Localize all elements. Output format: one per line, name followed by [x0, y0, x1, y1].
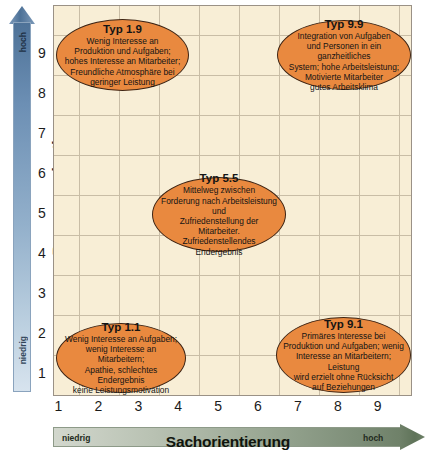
gridline-horizontal	[54, 115, 411, 116]
x-tick-label-8: 8	[326, 398, 350, 414]
chart-bubble-typ-5-5: Typ 5.5Mittelweg zwischen Forderung nach…	[152, 177, 286, 252]
x-axis-arrow-body: Sachorientierung	[53, 427, 401, 447]
bubble-body: Wenig Interesse an Aufgaben; wenig Inter…	[63, 334, 179, 395]
y-axis-arrow: hoch niedrig	[9, 6, 35, 392]
chart-plot-area: Typ 1.9Wenig Interesse an Produktion und…	[53, 5, 412, 396]
y-tick-label-9: 9	[34, 45, 50, 61]
bubble-body: Integration von Aufgaben und Personen in…	[284, 31, 404, 92]
y-tick-label-2: 2	[34, 325, 50, 341]
x-tick-label-1: 1	[47, 398, 71, 414]
chart-bubble-typ-1-1: Typ 1.1Wenig Interesse an Aufgaben; weni…	[56, 323, 186, 393]
bubble-body: Mittelweg zwischen Forderung nach Arbeit…	[159, 185, 279, 256]
chart-bubble-typ-9-9: Typ 9.9Integration von Aufgaben und Pers…	[277, 20, 411, 90]
bubble-body: Primäres Interesse bei Produktion und Au…	[283, 331, 404, 392]
chart-bubble-typ-1-9: Typ 1.9Wenig Interesse an Produktion und…	[56, 19, 189, 91]
x-tick-label-3: 3	[126, 398, 150, 414]
x-tick-label-9: 9	[366, 398, 390, 414]
y-axis-high-label: hoch	[18, 32, 28, 52]
x-tick-label-4: 4	[166, 398, 190, 414]
x-tick-label-2: 2	[86, 398, 110, 414]
y-tick-label-7: 7	[34, 125, 50, 141]
y-tick-label-6: 6	[34, 165, 50, 181]
y-axis-low-label: niedrig	[18, 336, 28, 364]
y-tick-label-8: 8	[34, 85, 50, 101]
x-axis-high-label: hoch	[363, 433, 383, 443]
x-tick-label-7: 7	[286, 398, 310, 414]
x-axis-arrow: Sachorientierung niedrig hoch	[53, 424, 425, 450]
y-tick-label-4: 4	[34, 245, 50, 261]
gridline-horizontal	[54, 275, 411, 276]
y-tick-label-1: 1	[34, 365, 50, 381]
bubble-title: Typ 1.1	[102, 321, 141, 334]
x-tick-label-6: 6	[246, 398, 270, 414]
bubble-body: Wenig Interesse an Produktion und Aufgab…	[65, 36, 180, 87]
gridline-horizontal	[54, 315, 411, 316]
x-axis-arrow-head-icon	[400, 424, 425, 450]
bubble-title: Typ 9.9	[325, 18, 364, 31]
x-axis-title: Sachorientierung	[54, 433, 402, 451]
y-tick-label-5: 5	[34, 205, 50, 221]
bubble-title: Typ 9.1	[324, 318, 363, 331]
x-tick-label-5: 5	[206, 398, 230, 414]
x-axis-low-label: niedrig	[62, 433, 90, 443]
y-tick-label-3: 3	[34, 285, 50, 301]
bubble-title: Typ 1.9	[103, 23, 142, 36]
chart-bubble-typ-9-1: Typ 9.1Primäres Interesse bei Produktion…	[276, 317, 411, 393]
gridline-horizontal	[54, 155, 411, 156]
bubble-title: Typ 5.5	[200, 172, 239, 185]
